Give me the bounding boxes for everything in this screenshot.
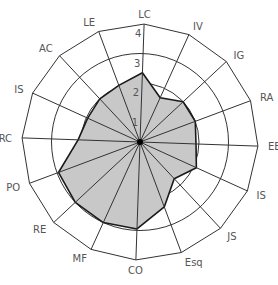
tick-label-2: 2 <box>133 87 139 98</box>
radar-series <box>58 73 196 229</box>
tick-label-4: 4 <box>135 28 141 39</box>
axis-label-lc-0: LC <box>138 9 151 20</box>
axis-label-js-6: JS <box>226 231 236 242</box>
axis-label-is-5: IS <box>256 190 265 201</box>
axis-label-mf-9: MF <box>73 253 88 264</box>
axis-label-re-10: RE <box>33 224 46 235</box>
axis-label-ac-14: AC <box>39 43 53 54</box>
tick-label-1: 1 <box>132 117 138 128</box>
center-dot <box>137 139 143 145</box>
tick-label-3: 3 <box>134 58 140 69</box>
axis-label-le-15: LE <box>83 17 95 28</box>
axis-label-rc-12: RC <box>0 133 12 144</box>
axis-label-esq-7: Esq <box>185 257 203 268</box>
axis-label-ra-3: RA <box>260 92 274 103</box>
axis-label-co-8: CO <box>128 265 143 276</box>
axis-label-iv-1: IV <box>193 21 203 32</box>
axis-label-po-11: PO <box>6 182 20 193</box>
axis-label-ig-2: IG <box>234 50 245 61</box>
axis-label-ee-4: EE <box>268 141 278 152</box>
axis-label-is-13: IS <box>14 84 23 95</box>
series-polygon-0 <box>58 73 196 229</box>
radar-chart: 1234 LCIVIGRAEEISJSEsqCOMFREPORCISACLE <box>0 0 278 285</box>
